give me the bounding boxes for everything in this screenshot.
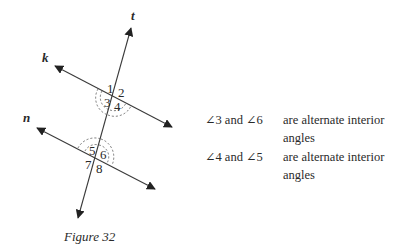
angle-label-2: 2: [118, 86, 125, 99]
angle-label-1: 1: [107, 82, 114, 95]
angle-label-5: 5: [89, 144, 96, 157]
statement-1-description: are alternate interior angles: [283, 111, 397, 147]
angle-label-8: 8: [96, 162, 103, 175]
statement-2-description: are alternate interior angles: [283, 148, 397, 184]
figure-caption: Figure 32: [64, 229, 115, 245]
statement-2-angles: ∠4 and ∠5: [205, 148, 263, 166]
angle-label-7: 7: [85, 158, 92, 171]
statement-2-desc-line1: are alternate interior: [283, 148, 397, 166]
line-t: [78, 28, 131, 218]
angle-label-4: 4: [114, 100, 121, 113]
line-k: [55, 66, 172, 127]
angle-label-3: 3: [104, 96, 111, 109]
label-k: k: [42, 51, 49, 64]
statement-1-angles: ∠3 and ∠6: [205, 111, 263, 129]
statement-2-desc-line2: angles: [283, 166, 397, 184]
line-n: [37, 128, 155, 189]
angle-label-6: 6: [100, 148, 107, 161]
label-t: t: [131, 9, 135, 22]
statement-1-desc-line1: are alternate interior: [283, 111, 397, 129]
statement-1-desc-line2: angles: [283, 129, 397, 147]
label-n: n: [23, 111, 30, 124]
